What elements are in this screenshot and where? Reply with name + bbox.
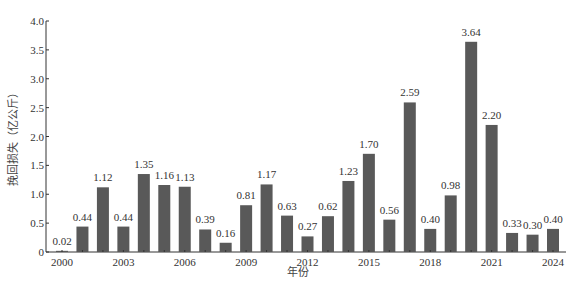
bar [547, 229, 559, 252]
x-tick-label: 2018 [419, 256, 442, 268]
y-tick-label: 0.5 [30, 217, 44, 229]
bar [506, 233, 518, 252]
bar-value-label: 1.35 [134, 158, 154, 170]
y-tick-label: 1.0 [30, 188, 44, 200]
bar [76, 227, 88, 252]
bar [302, 236, 314, 252]
y-tick-label: 3.5 [30, 44, 44, 56]
bar [240, 205, 252, 252]
bar [97, 187, 109, 252]
x-tick-label: 2015 [358, 256, 381, 268]
bar-value-label: 1.17 [257, 168, 277, 180]
bar-value-label: 2.59 [400, 86, 420, 98]
bar-value-label: 1.13 [175, 171, 195, 183]
y-tick-label: 2.0 [30, 131, 44, 143]
x-tick-label: 2000 [51, 256, 74, 268]
bar-value-label: 0.16 [216, 227, 236, 239]
bar-value-label: 3.64 [462, 26, 482, 38]
x-tick-label: 2009 [235, 256, 258, 268]
bar [486, 125, 498, 252]
bar-value-label: 0.27 [298, 220, 318, 232]
bar [383, 220, 395, 252]
bar-value-label: 0.40 [543, 213, 563, 225]
bar-value-label: 0.39 [196, 213, 216, 225]
bar [445, 195, 457, 252]
bar-value-label: 0.56 [380, 204, 400, 216]
bar [117, 227, 129, 252]
bar [465, 42, 477, 252]
bar-value-label: 2.20 [482, 109, 502, 121]
x-tick-label: 2024 [542, 256, 565, 268]
y-tick-label: 0 [39, 246, 45, 258]
x-tick-label: 2006 [174, 256, 197, 268]
bar [404, 102, 416, 252]
bar-value-label: 1.23 [339, 165, 359, 177]
x-tick-label: 2003 [112, 256, 135, 268]
bar-value-label: 0.81 [237, 189, 256, 201]
bar-value-label: 0.33 [502, 217, 522, 229]
x-tick-label: 2021 [481, 256, 503, 268]
bar [527, 235, 539, 252]
chart-canvas: 00.51.01.52.02.53.03.54.00.0220000.441.1… [0, 0, 582, 292]
bar-value-label: 0.63 [277, 200, 297, 212]
bar [424, 229, 436, 252]
y-axis-title: 挽回损失（亿公斤） [4, 87, 20, 186]
bar [261, 184, 273, 252]
y-tick-label: 2.5 [30, 102, 44, 114]
bar [363, 154, 375, 252]
bar [281, 216, 293, 252]
bar [322, 216, 334, 252]
bar-value-label: 0.98 [441, 179, 461, 191]
bar-value-label: 0.62 [318, 200, 337, 212]
bar-value-label: 0.30 [523, 219, 543, 231]
bar-chart: 00.51.01.52.02.53.03.54.00.0220000.441.1… [0, 0, 582, 292]
bar [179, 187, 191, 252]
bar-value-label: 0.44 [114, 211, 134, 223]
bar-value-label: 0.02 [52, 235, 71, 247]
bar-value-label: 1.70 [359, 138, 379, 150]
bar [158, 185, 170, 252]
x-axis-title: 年份 [287, 263, 309, 279]
bar [342, 181, 354, 252]
bar-value-label: 1.12 [93, 171, 112, 183]
bar-value-label: 0.40 [421, 213, 441, 225]
bar-value-label: 1.16 [155, 169, 175, 181]
y-tick-label: 1.5 [30, 159, 44, 171]
y-tick-label: 3.0 [30, 73, 44, 85]
bar [138, 174, 150, 252]
bar [199, 229, 211, 252]
y-tick-label: 4.0 [30, 15, 44, 27]
bar-value-label: 0.44 [73, 211, 93, 223]
